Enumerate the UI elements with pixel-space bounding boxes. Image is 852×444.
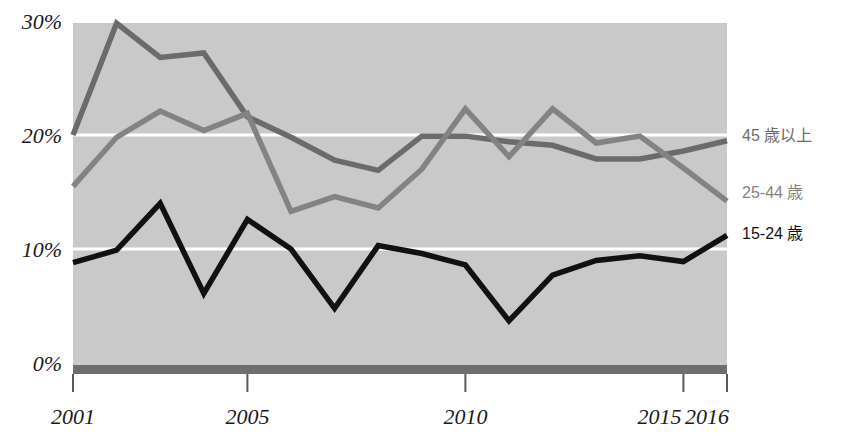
legend-label-0: 45 歳以上 xyxy=(742,127,812,144)
plot-area-background xyxy=(73,23,727,365)
y-tick-label-10%: 10% xyxy=(22,237,62,262)
x-tick-label-2010: 2010 xyxy=(443,404,487,429)
y-tick-label-20%: 20% xyxy=(22,123,62,148)
x-tick-label-2015: 2015 xyxy=(637,404,681,429)
x-axis-ticks xyxy=(73,374,727,392)
x-tick-label-2001: 2001 xyxy=(51,404,95,429)
x-tick-label-2005: 2005 xyxy=(225,404,269,429)
x-axis-baseline xyxy=(73,365,727,374)
line-chart: 0%10%20%30% 20012005201020152016 45 歳以上2… xyxy=(0,0,852,444)
legend-label-2: 15-24 歳 xyxy=(742,225,803,242)
y-tick-label-30%: 30% xyxy=(21,9,62,34)
x-tick-label-2016: 2016 xyxy=(685,404,729,429)
legend-label-1: 25-44 歳 xyxy=(742,184,803,201)
chart-svg: 0%10%20%30% 20012005201020152016 45 歳以上2… xyxy=(0,0,852,444)
x-axis-tick-labels: 20012005201020152016 xyxy=(51,404,729,429)
y-tick-label-0%: 0% xyxy=(33,351,62,376)
legend: 45 歳以上25-44 歳15-24 歳 xyxy=(742,127,812,242)
y-axis-tick-labels: 0%10%20%30% xyxy=(21,9,62,376)
